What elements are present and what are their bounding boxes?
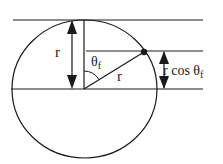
label-projection: r cos θf bbox=[163, 63, 204, 80]
angle-arc bbox=[84, 71, 99, 80]
circle-projection-diagram: r θf r r cos θf bbox=[0, 0, 223, 164]
point-on-circle bbox=[141, 49, 147, 55]
label-hyp-radius: r bbox=[117, 68, 122, 84]
label-angle: θf bbox=[91, 54, 102, 71]
label-left-radius: r bbox=[55, 44, 60, 60]
arrow-head-down bbox=[67, 75, 77, 89]
